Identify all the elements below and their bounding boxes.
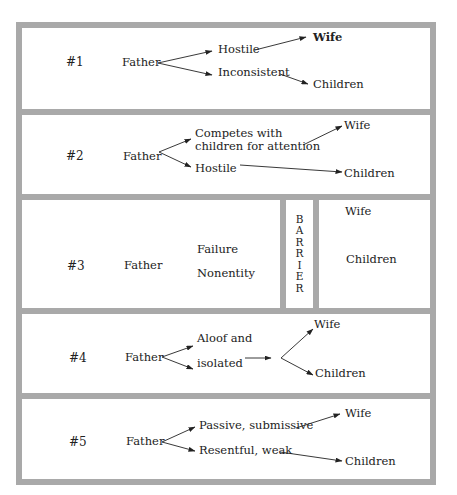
panel-number: #3 (67, 259, 85, 273)
target-children: Children (346, 253, 397, 266)
father-label: Father (123, 150, 161, 163)
divider-3-4 (16, 308, 436, 314)
divider-4-5 (16, 393, 436, 399)
trait-lower: Nonentity (197, 267, 255, 280)
panel-number: #4 (69, 351, 87, 365)
target-wife: Wife (344, 119, 370, 132)
divider-2-3 (16, 194, 436, 200)
barrier-label: B A R R I E R (286, 200, 313, 308)
trait-upper: Passive, submissive (199, 419, 313, 432)
target-wife: Wife (313, 31, 342, 44)
panel-number: #5 (69, 435, 87, 449)
trait-lower: Resentful, weak (199, 444, 292, 457)
barrier-right-bar (313, 194, 319, 312)
target-children: Children (345, 455, 396, 468)
target-wife: Wife (345, 407, 371, 420)
barrier-letter: R (296, 283, 304, 295)
trait-lower: Inconsistent (218, 66, 290, 79)
trait-upper: Hostile (218, 43, 260, 56)
target-wife: Wife (314, 318, 340, 331)
trait-upper: Failure (197, 243, 238, 256)
target-children: Children (313, 78, 364, 91)
panel-number: #1 (66, 55, 84, 69)
target-children: Children (315, 367, 366, 380)
trait-lower: Hostile (195, 162, 237, 175)
trait-lower: isolated (197, 357, 243, 370)
father-label: Father (122, 56, 160, 69)
target-children: Children (344, 167, 395, 180)
trait-upper: Aloof and (197, 332, 252, 345)
father-label: Father (125, 351, 163, 364)
trait-upper-line2: children for attention (195, 140, 320, 153)
father-label: Father (124, 259, 162, 272)
target-wife: Wife (345, 205, 371, 218)
father-label: Father (126, 435, 164, 448)
divider-1-2 (16, 109, 436, 115)
panel-number: #2 (66, 149, 84, 163)
